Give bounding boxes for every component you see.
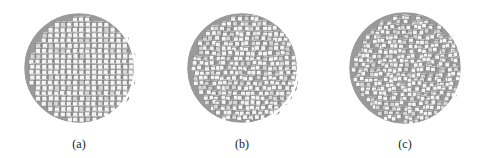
subfigure-a: (a) (0, 0, 160, 158)
voxel-sphere-b-image (163, 0, 323, 135)
voxel-sphere-c-image (326, 0, 492, 135)
subfigure-b: (b) (163, 0, 323, 158)
subfigure-caption-c: (c) (385, 137, 425, 152)
subfigure-caption-b: (b) (222, 137, 262, 152)
subfigure-caption-a: (a) (59, 137, 99, 152)
subfigure-c: (c) (326, 0, 492, 158)
voxel-sphere-a-image (0, 0, 160, 135)
figure: (a) (b) (c) (0, 0, 492, 158)
